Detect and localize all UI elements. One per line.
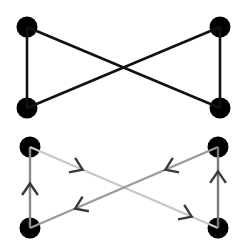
graph-diagram-canvas xyxy=(0,0,249,248)
undirected-bowtie-graph xyxy=(17,17,231,119)
edges xyxy=(27,27,220,108)
graphs-layer xyxy=(17,17,231,239)
directed-bowtie-graph xyxy=(20,137,229,239)
